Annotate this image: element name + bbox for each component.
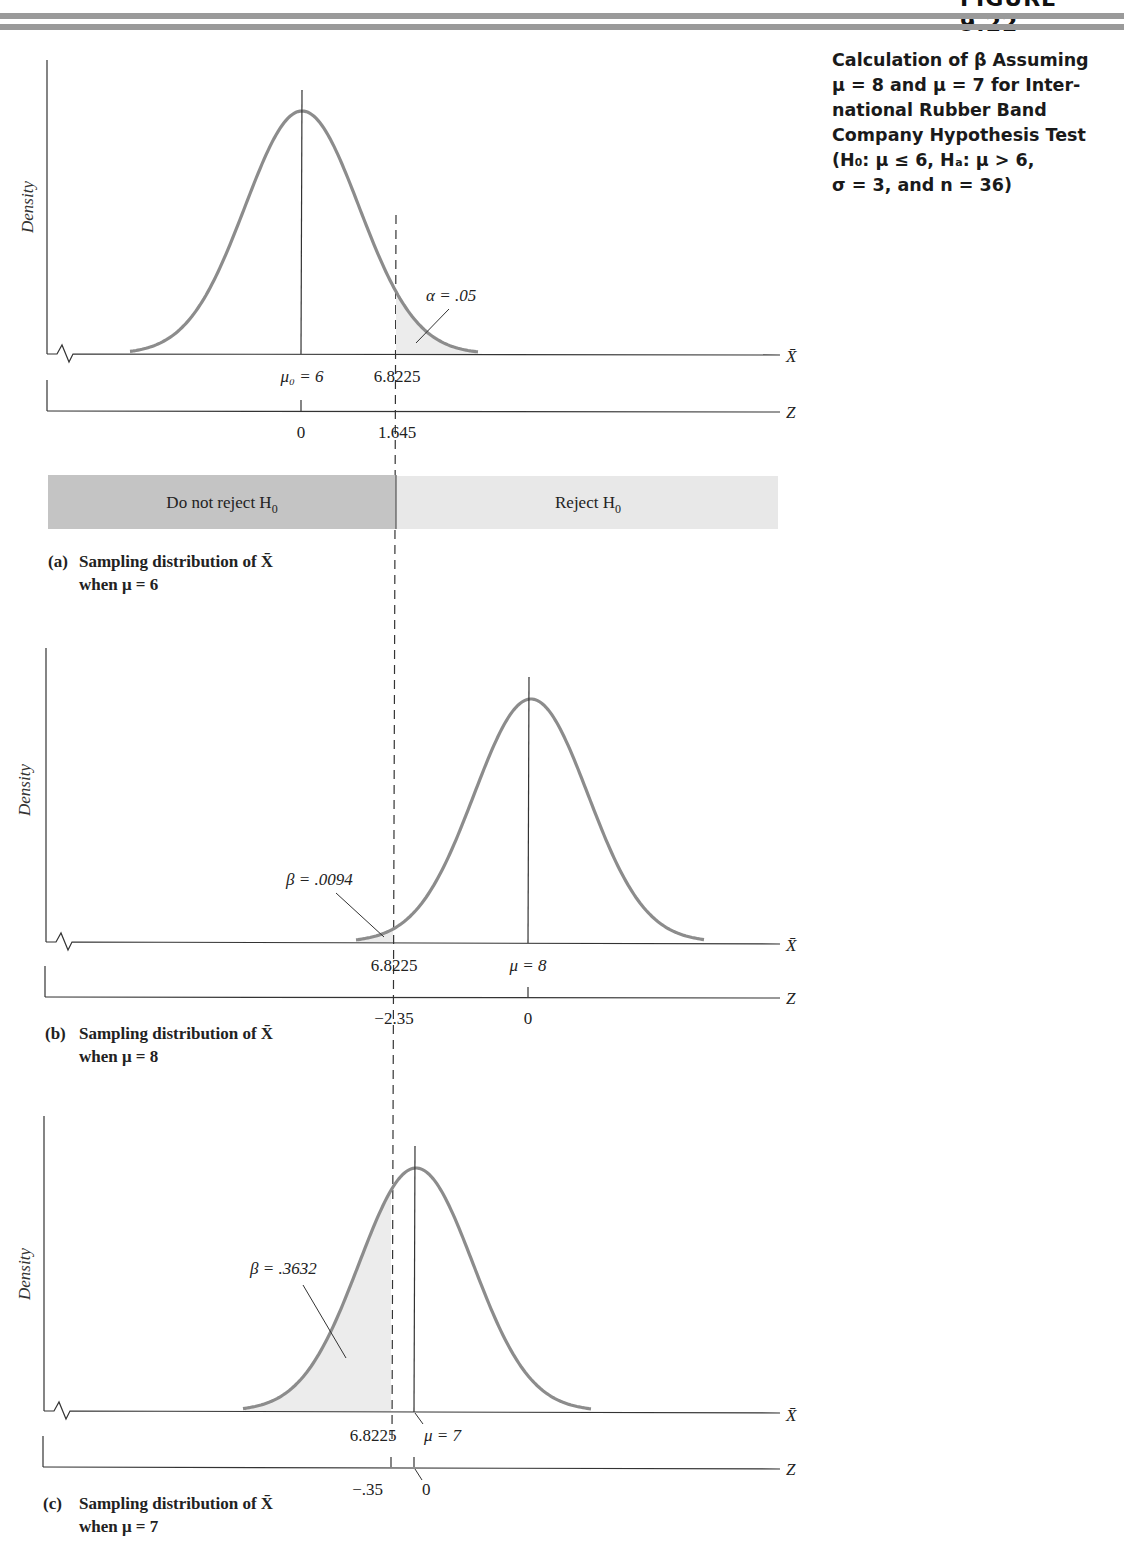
mu-leader-line <box>415 1413 423 1424</box>
panel-tag: (a) <box>48 552 68 571</box>
critical-value-line <box>392 215 396 1440</box>
xbar-axis-label: X̄ <box>785 1406 797 1425</box>
axis-break-icon <box>44 1402 780 1419</box>
xbar-axis-label: X̄ <box>785 936 797 955</box>
critical-label: 6.8225 <box>374 367 421 386</box>
z-axis <box>45 997 780 998</box>
beta-label: β = .3632 <box>249 1259 317 1278</box>
panel-subtitle: when μ = 7 <box>79 1517 159 1536</box>
beta-shaded-area <box>245 1190 391 1411</box>
panel-subtitle: when μ = 8 <box>79 1047 158 1066</box>
y-axis-label: Density <box>18 181 37 234</box>
critical-label: 6.8225 <box>371 956 418 975</box>
mean-line <box>414 1146 415 1412</box>
panel-a-caption: (a) Sampling distribution of X̄ when μ =… <box>48 552 274 594</box>
z-mean-label: 0 <box>422 1480 431 1499</box>
panel-c: Density β = .3632 6.8225 μ = 7 X̄ Z −.35… <box>15 1116 797 1499</box>
xbar-axis-label: X̄ <box>785 347 797 366</box>
panel-b-caption: (b) Sampling distribution of X̄ when μ =… <box>45 1024 274 1066</box>
alpha-label: α = .05 <box>426 286 476 305</box>
normal-curve <box>130 111 478 352</box>
mean-line <box>528 677 529 943</box>
y-axis-label: Density <box>15 764 34 817</box>
panel-tag: (c) <box>43 1494 62 1513</box>
normal-curve <box>243 1168 591 1409</box>
z-axis <box>43 1467 780 1469</box>
beta-leader-line <box>336 893 384 937</box>
mean-line <box>301 90 302 354</box>
z-mean-label: 0 <box>524 1009 533 1028</box>
panel-c-caption: (c) Sampling distribution of X̄ when μ =… <box>43 1494 274 1536</box>
normal-curve <box>356 699 704 940</box>
panel-subtitle: when μ = 6 <box>79 575 158 594</box>
panel-title: Sampling distribution of X̄ <box>79 1024 274 1043</box>
z-mean-label: 0 <box>297 423 306 442</box>
z-critical-label: −2.35 <box>374 1009 413 1028</box>
z-critical-label: −.35 <box>352 1480 383 1499</box>
z-axis-label: Z <box>786 1460 796 1479</box>
y-axis-label: Density <box>15 1248 34 1301</box>
axis-break-icon <box>46 933 780 950</box>
decision-bar: Do not reject H0 Reject H0 <box>48 475 778 529</box>
panel-title: Sampling distribution of X̄ <box>79 1494 274 1513</box>
critical-label: 6.8225 <box>350 1426 397 1445</box>
figure-canvas: Density α = .05 μ₀ = 6 6.8225 X̄ Z 0 1.6… <box>0 0 1124 1551</box>
zero-leader-line <box>415 1469 422 1480</box>
panel-tag: (b) <box>45 1024 66 1043</box>
mean-label: μ = 7 <box>423 1426 463 1445</box>
panel-a: Density α = .05 μ₀ = 6 6.8225 X̄ Z 0 1.6… <box>18 60 797 442</box>
panel-title: Sampling distribution of X̄ <box>79 552 274 571</box>
mean-label: μ = 8 <box>508 956 547 975</box>
z-critical-label: 1.645 <box>378 423 416 442</box>
z-axis-label: Z <box>786 989 796 1008</box>
mean-label: μ₀ = 6 <box>280 367 324 386</box>
z-axis <box>47 411 780 412</box>
z-axis-label: Z <box>786 403 796 422</box>
panel-b: Density β = .0094 6.8225 μ = 8 X̄ Z −2.3… <box>15 648 797 1028</box>
beta-label: β = .0094 <box>285 870 353 889</box>
